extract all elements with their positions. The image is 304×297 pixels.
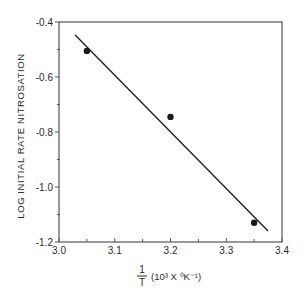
data-point <box>167 114 173 120</box>
axis-ticks: 3.03.13.23.33.4-0.4-0.6-0.8-1.0-1.2 <box>36 17 290 257</box>
y-tick-label: -1.2 <box>36 237 54 248</box>
x-tick-label: 3.0 <box>52 245 66 256</box>
data-point <box>251 220 257 226</box>
regression-line <box>75 35 268 231</box>
x-label-fraction-denominator: T <box>139 277 145 288</box>
x-tick-label: 3.4 <box>275 245 289 256</box>
x-label-fraction-numerator: 1 <box>139 264 145 275</box>
y-tick-label: -1.0 <box>36 182 54 193</box>
x-tick-label: 3.2 <box>164 245 178 256</box>
y-tick-label: -0.4 <box>36 17 54 28</box>
arrhenius-chart: 3.03.13.23.33.4-0.4-0.6-0.8-1.0-1.2 LOG … <box>0 0 304 297</box>
y-axis-label: LOG INITIAL RATE NITROSATION <box>15 53 26 218</box>
x-axis-label: 1 T (10³ X ⁰K⁻¹) <box>137 264 201 288</box>
x-tick-label: 3.1 <box>108 245 122 256</box>
x-tick-label: 3.3 <box>219 245 233 256</box>
y-tick-label: -0.8 <box>36 127 54 138</box>
data-series <box>75 35 268 231</box>
y-tick-label: -0.6 <box>36 72 54 83</box>
x-label-units: (10³ X ⁰K⁻¹) <box>151 271 201 282</box>
